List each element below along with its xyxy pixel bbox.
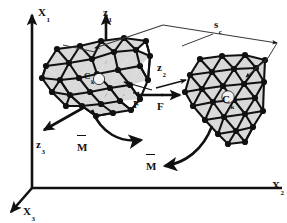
moment-lower-curve bbox=[165, 126, 212, 166]
axis-label-z2: z2 bbox=[157, 58, 165, 77]
contact-mechanics-figure: X1 X2 X3 z1 z2 z3 sc F bbox=[0, 0, 287, 223]
axis-label-z1: z1 bbox=[103, 3, 111, 22]
axis-label-x1: X1 bbox=[38, 3, 49, 22]
moment-label-lower: M bbox=[146, 157, 156, 173]
force-label-left: F bbox=[133, 95, 140, 111]
body-left-centroid-label: Ck bbox=[84, 72, 94, 83]
force-label-right: F bbox=[157, 97, 164, 113]
body-right-centroid-label: Ck bbox=[222, 90, 234, 109]
axis-label-x2: X2 bbox=[272, 176, 283, 195]
body-left-centroid-marker bbox=[93, 73, 104, 84]
sc-tick-right bbox=[268, 43, 277, 58]
force-left-accent-arrow bbox=[133, 91, 140, 95]
moment-label-upper: M bbox=[77, 138, 87, 154]
axis-label-x3: X3 bbox=[23, 202, 34, 221]
force-right-arrow-line bbox=[156, 80, 186, 88]
axis-label-z3: z3 bbox=[36, 135, 44, 154]
separation-label-sc: sc bbox=[214, 15, 221, 34]
moment-upper-accent-bar bbox=[77, 135, 86, 136]
figure-canvas bbox=[0, 0, 287, 223]
moment-lower-accent-bar bbox=[146, 154, 155, 155]
force-right-accent-arrow bbox=[157, 93, 164, 97]
right-body-leader bbox=[182, 34, 213, 46]
